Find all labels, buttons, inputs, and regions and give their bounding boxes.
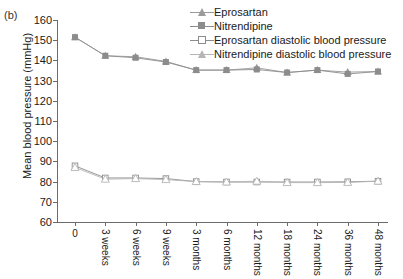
legend-label: Eprosartan <box>214 7 268 18</box>
x-tick-mark <box>196 222 197 226</box>
legend-marker-icon <box>190 34 214 46</box>
legend-item[interactable]: Nitrendipine diastolic blood pressure <box>190 48 391 60</box>
x-tick-mark <box>287 222 288 226</box>
x-tick-label: 3 weeks <box>100 229 110 266</box>
data-point-marker <box>72 34 78 40</box>
x-tick-label: 6 months <box>222 229 232 270</box>
y-tick-label: 90 <box>40 156 52 167</box>
data-point-marker <box>193 67 199 73</box>
data-point-marker <box>375 69 381 75</box>
data-point-marker <box>224 67 230 73</box>
legend-item[interactable]: Eprosartan <box>190 6 391 18</box>
data-point-marker <box>102 53 108 59</box>
data-point-marker <box>314 67 320 73</box>
x-tick-mark <box>166 222 167 226</box>
legend-item[interactable]: Nitrendipine <box>190 20 391 32</box>
x-tick-mark <box>227 222 228 226</box>
x-tick-mark <box>75 222 76 226</box>
x-tick-mark <box>105 222 106 226</box>
legend-item[interactable]: Eprosartan diastolic blood pressure <box>190 34 391 46</box>
figure-panel-b: (b) Mean blood pressure (mmHg) 607080901… <box>0 0 403 279</box>
legend-label: Eprosartan diastolic blood pressure <box>214 35 386 46</box>
legend-label: Nitrendipine diastolic blood pressure <box>214 49 391 60</box>
y-tick-label: 140 <box>34 55 52 66</box>
data-point-marker <box>133 55 139 61</box>
legend: EprosartanNitrendipineEprosartan diastol… <box>190 6 391 62</box>
x-tick-label: 36 months <box>343 229 353 276</box>
x-tick-mark <box>348 222 349 226</box>
x-tick-label: 18 months <box>282 229 292 276</box>
y-tick-label: 60 <box>40 217 52 228</box>
legend-marker-icon <box>190 48 214 60</box>
x-tick-label: 24 months <box>312 229 322 276</box>
legend-marker-icon <box>190 6 214 18</box>
data-point-marker <box>254 66 260 72</box>
y-tick-mark <box>53 222 57 223</box>
x-tick-label: 3 months <box>191 229 201 270</box>
y-tick-label: 70 <box>40 196 52 207</box>
x-tick-mark <box>378 222 379 226</box>
data-point-marker <box>284 70 290 76</box>
legend-label: Nitrendipine <box>214 21 273 32</box>
series-nitrendipine-diastolic-blood-pressure <box>71 163 382 185</box>
x-tick-label: 12 months <box>252 229 262 276</box>
x-tick-label: 0 <box>72 229 78 239</box>
y-tick-label: 80 <box>40 176 52 187</box>
data-point-marker <box>345 71 351 77</box>
legend-marker-icon <box>190 20 214 32</box>
y-tick-label: 160 <box>34 15 52 26</box>
y-tick-label: 100 <box>34 136 52 147</box>
y-tick-label: 110 <box>34 116 52 127</box>
x-tick-label: 9 weeks <box>161 229 171 266</box>
y-tick-label: 150 <box>34 35 52 46</box>
panel-label: (b) <box>4 9 17 21</box>
x-axis-line <box>57 222 388 223</box>
x-tick-label: 6 weeks <box>131 229 141 266</box>
x-tick-mark <box>317 222 318 226</box>
data-point-marker <box>163 59 169 65</box>
y-tick-label: 130 <box>34 75 52 86</box>
x-tick-mark <box>136 222 137 226</box>
x-tick-mark <box>257 222 258 226</box>
x-tick-label: 48 months <box>373 229 383 276</box>
y-tick-label: 120 <box>34 95 52 106</box>
y-axis-title: Mean blood pressure (mmHg) <box>21 21 33 191</box>
